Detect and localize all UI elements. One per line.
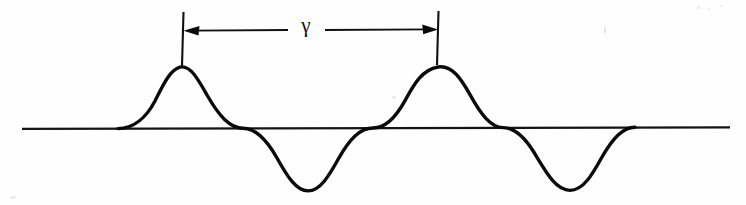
wavelength-symbol-label: γ [286,13,326,37]
crest-2-extension-line [437,11,439,65]
crest-1-extension-line [182,12,184,66]
figure-canvas: γ [0,0,746,205]
dimension-line-left [192,30,288,31]
arrow-right-icon [422,25,438,35]
arrow-left-icon [184,26,200,36]
dimension-line-right [325,29,430,30]
wavelength-figure [0,0,746,205]
